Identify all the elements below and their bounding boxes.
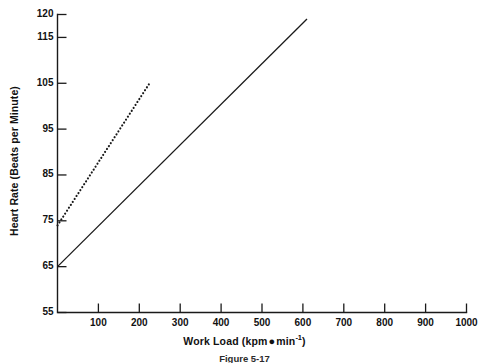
y-axis-tick-label: 115 xyxy=(24,31,54,42)
figure-container: Work Load (kpm●min-1) Heart Rate (Beats … xyxy=(0,0,489,363)
x-axis-tick-label: 300 xyxy=(159,317,201,328)
y-axis-tick-label: 105 xyxy=(24,77,54,88)
chart-plot-area xyxy=(0,0,489,363)
x-axis-tick-label: 500 xyxy=(241,317,283,328)
x-axis-title: Work Load (kpm●min-1) xyxy=(0,333,489,347)
x-axis-tick-label: 1000 xyxy=(446,317,488,328)
x-axis-tick-label: 900 xyxy=(405,317,447,328)
x-axis-tick-label: 100 xyxy=(77,317,119,328)
y-axis-tick-label: 75 xyxy=(24,214,54,225)
figure-caption: Figure 5-17 xyxy=(0,353,489,363)
y-axis-tick-label: 120 xyxy=(24,8,54,19)
x-axis-tick-label: 600 xyxy=(282,317,324,328)
x-axis-tick-label: 700 xyxy=(323,317,365,328)
y-axis-tick-label: 65 xyxy=(24,260,54,271)
axis-spines xyxy=(58,15,467,313)
y-axis-tick-label: 55 xyxy=(24,306,54,317)
x-axis-tick-label: 400 xyxy=(200,317,242,328)
data-series-dotted-line xyxy=(58,83,150,225)
y-axis-tick-label: 85 xyxy=(24,168,54,179)
x-axis-title-unit: min xyxy=(276,335,295,347)
data-series-solid-line xyxy=(58,19,307,267)
y-axis-title: Heart Rate (Beats per Minute) xyxy=(8,41,20,281)
y-axis-tick-label: 95 xyxy=(24,123,54,134)
x-axis-tick-label: 800 xyxy=(364,317,406,328)
x-axis-title-middot: ● xyxy=(267,335,276,347)
x-axis-tick-label: 200 xyxy=(118,317,160,328)
x-axis-title-text: Work Load (kpm xyxy=(183,335,267,347)
x-axis-title-close: ) xyxy=(302,335,306,347)
